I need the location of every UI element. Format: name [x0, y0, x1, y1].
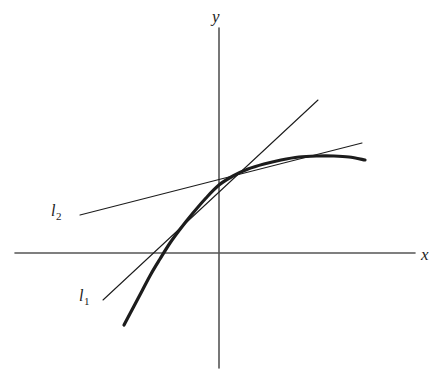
- y-axis-label: y: [212, 8, 220, 25]
- line-label-l1-subscript: 1: [84, 295, 90, 307]
- line-label-l2: l2: [51, 203, 61, 222]
- line-label-l2-base: l: [51, 202, 55, 219]
- tangent-line-l1: [103, 100, 318, 300]
- line-label-l2-subscript: 2: [56, 210, 62, 222]
- figure-canvas: [0, 0, 440, 374]
- line-label-l1: l1: [79, 288, 89, 307]
- tangent-line-l2: [80, 143, 362, 215]
- function-curve: [124, 156, 365, 325]
- line-label-l1-base: l: [79, 287, 83, 304]
- tangent-lines-figure: y x l1 l2: [0, 0, 440, 374]
- x-axis-label: x: [421, 246, 429, 263]
